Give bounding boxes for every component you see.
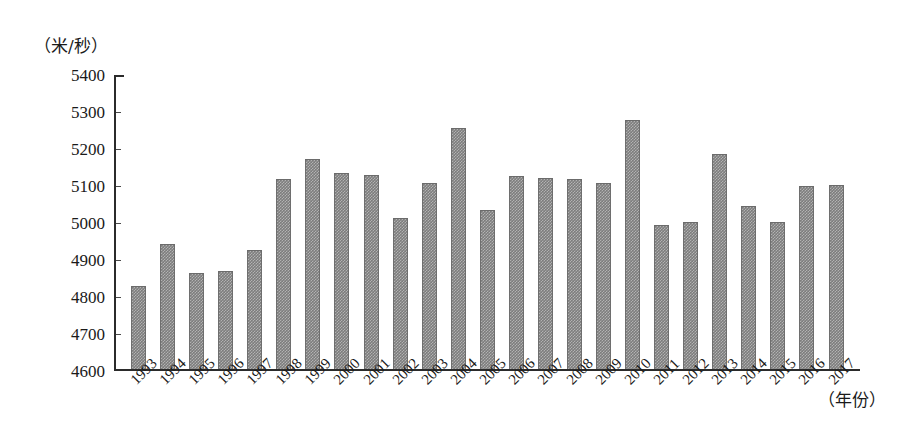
bar: [247, 250, 262, 369]
bar: [276, 179, 291, 369]
bar: [160, 244, 175, 369]
bar: [625, 120, 640, 369]
x-axis-tick-labels: 1993199419951996199719981999200020012002…: [114, 373, 860, 433]
bar: [567, 179, 582, 369]
bar: [451, 128, 466, 369]
y-axis-tick-label: 5400: [71, 67, 105, 84]
y-axis-tick-label: 5000: [71, 215, 105, 232]
bar: [538, 178, 553, 369]
bar-chart: （米/秒） 5400530052005100500049004800470046…: [0, 0, 914, 440]
y-axis-unit-label: （米/秒）: [34, 38, 108, 55]
y-axis-tick-label: 4600: [71, 363, 105, 380]
bar: [334, 173, 349, 369]
bar: [683, 222, 698, 369]
y-axis-tick-label: 5100: [71, 178, 105, 195]
bar: [189, 273, 204, 369]
bar: [131, 286, 146, 369]
bar: [305, 159, 320, 369]
bar: [770, 222, 785, 369]
y-axis-tick-label: 4800: [71, 289, 105, 306]
bar: [829, 185, 844, 369]
x-axis-unit-label: （年份）: [818, 392, 886, 409]
bar: [596, 183, 611, 369]
bar: [393, 218, 408, 369]
bar: [364, 175, 379, 369]
y-axis-tick-label: 4900: [71, 252, 105, 269]
bar: [741, 206, 756, 369]
bar: [654, 225, 669, 369]
y-axis-tick-label: 5200: [71, 141, 105, 158]
bar: [799, 186, 814, 369]
plot-area: 540053005200510050004900480047004600: [114, 75, 860, 371]
bar: [218, 271, 233, 369]
bar-series: [116, 75, 860, 369]
y-axis-tick-label: 5300: [71, 104, 105, 121]
bar: [712, 154, 727, 369]
bar: [480, 210, 495, 369]
bar: [509, 176, 524, 369]
bar: [422, 183, 437, 369]
y-axis-tick-label: 4700: [71, 326, 105, 343]
